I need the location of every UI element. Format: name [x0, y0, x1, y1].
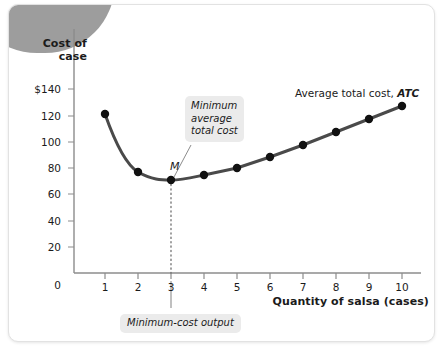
- point-m-label: M: [170, 160, 180, 173]
- origin-label: 0: [19, 279, 61, 291]
- x-axis-ticks: [105, 273, 402, 279]
- data-point: [233, 164, 241, 172]
- y-tick-label-80: 80: [19, 162, 61, 174]
- series-label: Average total cost, ATC: [295, 87, 419, 99]
- y-tick-label-120: 120: [19, 110, 61, 122]
- data-point: [332, 128, 340, 136]
- x-tick-label-8: 8: [326, 281, 346, 293]
- figure-card: Cost of case Quantity of salsa (cases) $…: [8, 4, 435, 342]
- atc-curve: [105, 106, 402, 180]
- x-tick-label-9: 9: [359, 281, 379, 293]
- x-tick-label-7: 7: [293, 281, 313, 293]
- series-label-abbr: ATC: [397, 87, 419, 99]
- data-point: [398, 102, 406, 110]
- y-axis-ticks: [68, 89, 74, 247]
- minimum-cost-output-callout: Minimum-cost output: [120, 314, 241, 333]
- x-tick-label-4: 4: [194, 281, 214, 293]
- y-tick-label-20: 20: [19, 241, 61, 253]
- y-tick-label-140: $140: [19, 83, 61, 95]
- x-tick-label-10: 10: [392, 281, 412, 293]
- x-axis-title: Quantity of salsa (cases): [259, 295, 429, 308]
- x-tick-label-1: 1: [95, 281, 115, 293]
- y-axis-title: Cost of case: [23, 37, 87, 63]
- atc-data-points: [101, 102, 406, 184]
- data-point: [101, 110, 109, 118]
- x-tick-label-5: 5: [227, 281, 247, 293]
- y-tick-label-40: 40: [19, 215, 61, 227]
- data-point: [266, 153, 274, 161]
- data-point: [200, 171, 208, 179]
- y-tick-label-60: 60: [19, 188, 61, 200]
- data-point: [365, 115, 373, 123]
- x-tick-label-3: 3: [161, 281, 181, 293]
- x-tick-label-6: 6: [260, 281, 280, 293]
- data-point: [134, 168, 142, 176]
- data-point: [299, 141, 307, 149]
- minimum-average-total-cost-callout: Minimum average total cost: [185, 96, 244, 142]
- x-tick-label-2: 2: [128, 281, 148, 293]
- y-tick-label-100: 100: [19, 136, 61, 148]
- data-point: [167, 176, 175, 184]
- series-label-text: Average total cost,: [295, 87, 397, 99]
